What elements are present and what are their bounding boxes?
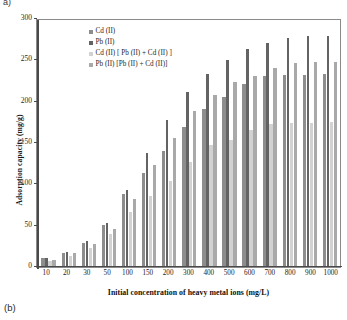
- bar: [294, 63, 297, 265]
- bar-group: [39, 20, 59, 266]
- bar: [202, 109, 205, 266]
- bar: [93, 244, 96, 266]
- bar: [102, 225, 105, 266]
- y-axis-tick-label: 300: [21, 14, 32, 22]
- y-axis-tick-label: 0: [28, 262, 32, 270]
- bar: [253, 76, 256, 266]
- bar: [153, 165, 156, 266]
- bar: [82, 243, 85, 266]
- bar: [142, 173, 145, 266]
- bar: [52, 260, 55, 266]
- bar: [169, 181, 172, 266]
- bar-group: [240, 20, 260, 266]
- x-axis-tick-label: 100: [117, 270, 137, 284]
- legend-label: Cd (II): [96, 28, 116, 35]
- bar-group: [260, 20, 280, 266]
- legend-label: Pb (II): [96, 39, 115, 46]
- y-axis-tick-label: 250: [21, 56, 32, 64]
- panel-letter-b: (b): [4, 302, 16, 313]
- bar: [41, 258, 44, 265]
- bar: [48, 261, 51, 266]
- bar-group: [280, 20, 300, 266]
- bar: [109, 234, 112, 266]
- bar: [303, 75, 306, 266]
- legend-item: Cd (II) [ Pb (II) + Cd (II) ]: [89, 50, 172, 58]
- bar-group: [320, 20, 340, 266]
- bar: [222, 97, 225, 266]
- x-axis-tick-label: 700: [260, 270, 280, 284]
- bar: [269, 124, 272, 266]
- bar: [249, 130, 252, 265]
- bar: [162, 151, 165, 266]
- bar-group: [219, 20, 239, 266]
- legend-swatch-icon: [89, 63, 93, 67]
- bar: [283, 75, 286, 266]
- chart-plot-frame: 050100150200250300 Cd (II)Pb (II)Cd (II)…: [36, 19, 341, 268]
- bar: [263, 76, 266, 266]
- bar: [233, 82, 236, 265]
- legend-swatch-icon: [89, 41, 93, 45]
- bar: [290, 123, 293, 266]
- bar: [189, 162, 192, 266]
- bar: [330, 122, 333, 266]
- x-axis-tick-label: 500: [219, 270, 239, 284]
- x-axis-tick-labels: 1020305010015020030040050060070080090010…: [36, 270, 341, 284]
- figure-panel: a) Adsorption capacity (mg/g) 0501001502…: [0, 0, 347, 320]
- y-axis-tick-label: 100: [21, 179, 32, 187]
- x-axis-tick-label: 10: [36, 270, 56, 284]
- bar-group: [199, 20, 219, 266]
- bar: [193, 111, 196, 266]
- y-axis-tick-label: 200: [21, 97, 32, 105]
- y-axis-title: Adsorption capacity (mg/g): [15, 114, 24, 205]
- bar: [182, 127, 185, 266]
- x-axis-tick-label: 300: [178, 270, 198, 284]
- bar: [229, 140, 232, 266]
- chart-legend: Cd (II)Pb (II)Cd (II) [ Pb (II) + Cd (II…: [89, 28, 172, 69]
- bar: [89, 248, 92, 265]
- bar: [113, 229, 116, 265]
- bar-groups: [39, 20, 340, 266]
- legend-label: Pb (II) [Pb (II) + Cd (II)]: [96, 61, 168, 68]
- bar: [173, 138, 176, 266]
- bar: [122, 194, 125, 266]
- bar: [129, 212, 132, 266]
- y-axis-tick-mark: [34, 18, 38, 19]
- legend-label: Cd (II) [ Pb (II) + Cd (II) ]: [96, 50, 172, 57]
- x-axis-tick-label: 20: [56, 270, 76, 284]
- legend-swatch-icon: [89, 30, 93, 34]
- bar: [213, 95, 216, 266]
- x-axis-tick-label: 400: [199, 270, 219, 284]
- bar: [69, 256, 72, 266]
- bar: [273, 68, 276, 266]
- bar: [133, 199, 136, 266]
- bar: [334, 62, 337, 266]
- x-axis-tick-label: 600: [239, 270, 259, 284]
- bar: [323, 74, 326, 266]
- panel-letter-a: a): [3, 0, 11, 7]
- x-axis-tick-label: 50: [97, 270, 117, 284]
- x-axis-title: Initial concentration of heavy metal ion…: [36, 288, 341, 297]
- x-axis-tick-label: 200: [158, 270, 178, 284]
- x-axis-tick-label: 800: [280, 270, 300, 284]
- x-axis-tick-label: 150: [138, 270, 158, 284]
- bar: [314, 62, 317, 266]
- legend-item: Pb (II) [Pb (II) + Cd (II)]: [89, 61, 172, 69]
- legend-item: Cd (II): [89, 28, 172, 36]
- bar: [149, 196, 152, 266]
- legend-swatch-icon: [89, 52, 93, 56]
- legend-item: Pb (II): [89, 39, 172, 47]
- x-axis-tick-label: 900: [300, 270, 320, 284]
- plot-canvas: [37, 20, 340, 267]
- y-axis-tick-label: 50: [25, 221, 33, 229]
- bar: [209, 145, 212, 266]
- bar-group: [300, 20, 320, 266]
- y-axis-tick-label: 150: [21, 138, 32, 146]
- x-axis-tick-label: 30: [77, 270, 97, 284]
- x-axis-tick-label: 1000: [321, 270, 341, 284]
- bar: [242, 84, 245, 266]
- bar-group: [59, 20, 79, 266]
- bar: [62, 253, 65, 266]
- bar: [310, 123, 313, 266]
- bar: [73, 253, 76, 265]
- bar-group: [179, 20, 199, 266]
